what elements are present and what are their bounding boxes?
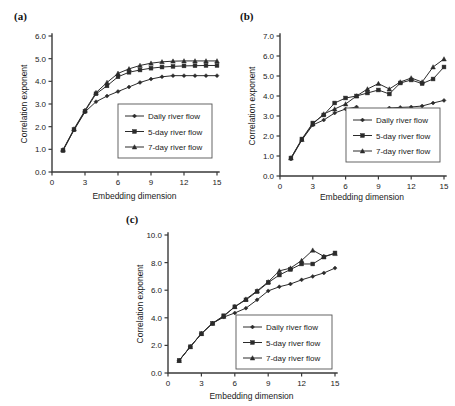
svg-text:7.0: 7.0	[263, 32, 275, 41]
svg-text:2.0: 2.0	[263, 132, 275, 141]
svg-text:5-day river flow: 5-day river flow	[148, 128, 202, 137]
svg-text:4.0: 4.0	[151, 314, 163, 323]
svg-text:15: 15	[331, 379, 340, 388]
chart-svg-c: 0.02.04.06.08.010.003691215Embedding dim…	[108, 203, 348, 406]
svg-text:6: 6	[233, 379, 238, 388]
svg-text:0: 0	[278, 182, 283, 191]
svg-text:1.0: 1.0	[35, 145, 47, 154]
svg-text:Embedding dimension: Embedding dimension	[92, 191, 176, 201]
chart-svg-b: 0.01.02.03.04.05.06.07.003691215Embeddin…	[226, 0, 455, 205]
svg-text:Daily river flow: Daily river flow	[266, 323, 318, 332]
svg-text:Correlation exponent: Correlation exponent	[19, 64, 29, 144]
svg-text:3: 3	[311, 182, 316, 191]
svg-text:Correlation exponent: Correlation exponent	[135, 264, 145, 344]
svg-text:0: 0	[166, 379, 171, 388]
svg-text:7-day river flow: 7-day river flow	[148, 143, 202, 152]
svg-text:2.0: 2.0	[151, 341, 163, 350]
svg-text:5-day river flow: 5-day river flow	[266, 339, 320, 348]
svg-text:12: 12	[297, 379, 306, 388]
svg-text:9: 9	[376, 182, 381, 191]
svg-text:10.0: 10.0	[146, 231, 162, 240]
svg-text:Embedding dimension: Embedding dimension	[320, 192, 404, 202]
panel-label-c: (c)	[126, 213, 138, 225]
svg-text:2.0: 2.0	[35, 123, 47, 132]
figure-container: (a) 0.01.02.03.04.05.06.003691215Embeddi…	[0, 0, 455, 406]
svg-text:5.0: 5.0	[263, 72, 275, 81]
svg-text:6.0: 6.0	[151, 286, 163, 295]
svg-text:6: 6	[343, 182, 348, 191]
chart-panel-a: (a) 0.01.02.03.04.05.06.003691215Embeddi…	[0, 0, 228, 205]
svg-text:3: 3	[83, 178, 88, 187]
chart-svg-a: 0.01.02.03.04.05.06.003691215Embedding d…	[0, 0, 228, 205]
svg-text:15: 15	[440, 182, 449, 191]
svg-text:8.0: 8.0	[151, 259, 163, 268]
svg-text:12: 12	[180, 178, 189, 187]
svg-text:9: 9	[266, 379, 271, 388]
panel-label-b: (b)	[240, 10, 253, 22]
svg-text:0.0: 0.0	[151, 369, 163, 378]
svg-text:12: 12	[407, 182, 416, 191]
svg-text:15: 15	[213, 178, 222, 187]
svg-text:0: 0	[50, 178, 55, 187]
svg-text:7-day river flow: 7-day river flow	[376, 147, 430, 156]
svg-text:7-day river flow: 7-day river flow	[266, 354, 320, 363]
chart-panel-b: (b) 0.01.02.03.04.05.06.07.003691215Embe…	[226, 0, 455, 205]
svg-text:9: 9	[149, 178, 154, 187]
svg-text:Embedding dimension: Embedding dimension	[209, 391, 293, 401]
chart-panel-c: (c) 0.02.04.06.08.010.003691215Embedding…	[108, 203, 348, 406]
svg-text:0.0: 0.0	[263, 172, 275, 181]
svg-text:3: 3	[199, 379, 204, 388]
svg-text:6.0: 6.0	[263, 52, 275, 61]
svg-text:5.0: 5.0	[35, 55, 47, 64]
svg-text:Daily river flow: Daily river flow	[148, 112, 200, 121]
svg-text:3.0: 3.0	[35, 100, 47, 109]
svg-text:6.0: 6.0	[35, 32, 47, 41]
svg-text:1.0: 1.0	[263, 152, 275, 161]
svg-text:0.0: 0.0	[35, 168, 47, 177]
svg-text:Correlation exponent: Correlation exponent	[247, 66, 257, 146]
svg-text:Daily river flow: Daily river flow	[376, 116, 428, 125]
svg-text:4.0: 4.0	[263, 92, 275, 101]
svg-text:5-day river flow: 5-day river flow	[376, 132, 430, 141]
svg-text:3.0: 3.0	[263, 112, 275, 121]
svg-text:4.0: 4.0	[35, 77, 47, 86]
svg-text:6: 6	[116, 178, 121, 187]
panel-label-a: (a)	[14, 10, 27, 22]
